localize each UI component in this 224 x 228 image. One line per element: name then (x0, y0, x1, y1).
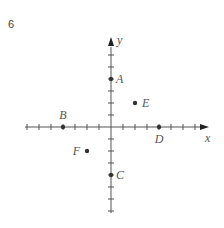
x-axis-label: x (204, 131, 211, 145)
y-axis-label: y (116, 33, 123, 47)
point-a-marker (109, 77, 113, 81)
point-a-label: A (115, 72, 124, 86)
point-d-label: D (154, 132, 164, 146)
point-c-label: C (116, 168, 125, 182)
point-e-marker (133, 101, 137, 105)
point-e-label: E (141, 96, 150, 110)
point-f-label: F (72, 144, 81, 158)
y-axis-arrow-icon (108, 37, 114, 46)
point-b-label: B (59, 108, 67, 122)
point-c-marker (109, 173, 113, 177)
point-b-marker (61, 125, 65, 129)
coordinate-plane: ABCDEF x y (0, 0, 224, 228)
point-f-marker (85, 149, 89, 153)
point-d-marker (157, 125, 161, 129)
axes (25, 37, 209, 213)
x-axis-arrow-icon (200, 124, 209, 130)
